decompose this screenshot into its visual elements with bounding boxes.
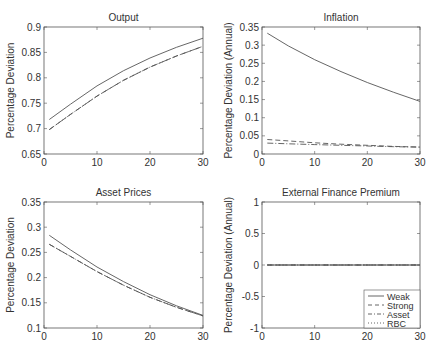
series-line-strong xyxy=(267,140,420,148)
figure: OutputPercentage Deviation01020300.650.7… xyxy=(0,0,438,355)
y-tick-label: 0 xyxy=(253,260,259,271)
series-line-weak xyxy=(49,235,203,315)
y-tick-label: 0.15 xyxy=(240,94,260,105)
x-tick-label: 0 xyxy=(41,157,47,168)
series-line-weak xyxy=(267,33,420,101)
series-line-strong xyxy=(49,46,203,129)
x-tick-label: 30 xyxy=(197,157,209,168)
y-tick-label: 0.9 xyxy=(27,22,41,33)
y-tick-label: 0.05 xyxy=(240,130,260,141)
series-line-strong xyxy=(49,244,203,316)
panel-asset-prices: Asset PricesPercentage Deviation01020300… xyxy=(5,187,209,342)
y-tick-label: 0.2 xyxy=(27,272,41,283)
x-tick-label: 30 xyxy=(197,331,209,342)
y-tick-label: 0.65 xyxy=(22,149,42,160)
y-axis-label: Percentage Deviation xyxy=(5,217,16,313)
chart-title: Asset Prices xyxy=(96,187,152,198)
x-tick-label: 30 xyxy=(414,157,426,168)
y-tick-label: 1 xyxy=(253,197,259,208)
x-tick-label: 10 xyxy=(309,157,321,168)
y-tick-label: 0 xyxy=(253,149,259,160)
y-tick-label: 0.3 xyxy=(245,40,259,51)
y-tick-label: 0.1 xyxy=(27,323,41,334)
y-tick-label: 0.25 xyxy=(22,247,42,258)
y-tick-label: 0.85 xyxy=(22,47,42,58)
y-tick-label: 0.8 xyxy=(27,72,41,83)
y-tick-label: 0.7 xyxy=(27,123,41,134)
y-tick-label: 0.15 xyxy=(22,297,42,308)
x-tick-label: 10 xyxy=(91,157,103,168)
panel-output: OutputPercentage Deviation01020300.650.7… xyxy=(5,12,209,168)
x-tick-label: 20 xyxy=(144,331,156,342)
panel-inflation: InflationPercentage Deviation (Annual)01… xyxy=(223,12,426,168)
y-tick-label: 0.35 xyxy=(240,22,260,33)
x-tick-label: 0 xyxy=(259,331,265,342)
y-tick-label: 0.3 xyxy=(27,222,41,233)
axes-box xyxy=(262,27,420,154)
y-tick-label: -1 xyxy=(250,323,259,334)
y-tick-label: 0.5 xyxy=(245,228,259,239)
x-tick-label: 20 xyxy=(144,157,156,168)
y-tick-label: 0.2 xyxy=(245,76,259,87)
y-tick-label: 0.1 xyxy=(245,112,259,123)
x-tick-label: 0 xyxy=(259,157,265,168)
x-tick-label: 20 xyxy=(362,331,374,342)
panel-external-finance-premium: External Finance PremiumPercentage Devia… xyxy=(223,187,426,342)
y-tick-label: -0.5 xyxy=(242,291,260,302)
x-tick-label: 0 xyxy=(41,331,47,342)
x-tick-label: 10 xyxy=(91,331,103,342)
x-tick-label: 10 xyxy=(309,331,321,342)
chart-title: Output xyxy=(108,12,138,23)
y-tick-label: 0.75 xyxy=(22,98,42,109)
y-axis-label: Percentage Deviation (Annual) xyxy=(223,22,234,158)
legend-label-rbc: RBC xyxy=(387,319,407,329)
y-tick-label: 0.25 xyxy=(240,58,260,69)
axes-box xyxy=(44,202,203,328)
x-tick-label: 20 xyxy=(362,157,374,168)
y-axis-label: Percentage Deviation xyxy=(5,43,16,139)
series-line-asset xyxy=(267,143,420,147)
series-line-asset xyxy=(49,46,203,129)
chart-title: External Finance Premium xyxy=(282,187,400,198)
chart-title: Inflation xyxy=(323,12,358,23)
y-tick-label: 0.35 xyxy=(22,197,42,208)
series-line-asset xyxy=(49,244,203,316)
y-axis-label: Percentage Deviation (Annual) xyxy=(223,197,234,333)
legend: WeakStrongAssetRBC xyxy=(364,290,420,329)
x-tick-label: 30 xyxy=(414,331,426,342)
